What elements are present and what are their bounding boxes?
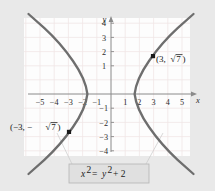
point-marker-neg3-neg-sqrt7: [67, 130, 71, 134]
point-label-radicand: 7: [51, 122, 56, 132]
x-axis-label: x: [195, 95, 200, 105]
y-tick-label: 3: [102, 34, 106, 43]
radical-icon: √: [171, 54, 176, 64]
y-tick-label: 2: [102, 48, 106, 57]
y-tick-label: 1: [102, 62, 106, 71]
equation-equals: =: [92, 169, 97, 179]
x-tick-label: −3: [64, 98, 73, 107]
equation-callout: x 2 = y 2 + 2: [69, 164, 149, 183]
point-label-suffix: ): [183, 54, 186, 64]
point-label-radicand: 7: [176, 54, 181, 64]
equation-x-exponent: 2: [87, 165, 92, 175]
equation-x-base: x: [80, 169, 86, 179]
x-tick-label: 3: [152, 98, 156, 107]
point-marker-3-sqrt7: [151, 54, 155, 58]
y-tick-label: −4: [99, 147, 108, 156]
x-tick-label: 5: [180, 98, 184, 107]
equation-y-base: y: [101, 169, 107, 179]
y-tick-label: 4: [102, 19, 106, 28]
y-tick-label: −1: [99, 104, 108, 113]
point-label-prefix: (−3, −: [10, 122, 32, 132]
x-tick-label: −5: [36, 98, 45, 107]
radical-icon: √: [46, 122, 51, 132]
graph-svg: y x −5 −4 −3 −2 −1 1 2 3 4 5 4 3 2 1 −1 …: [0, 0, 215, 191]
y-tick-label: −3: [99, 133, 108, 142]
equation-y-exponent: 2: [108, 165, 113, 175]
x-tick-label: 4: [166, 98, 170, 107]
y-tick-label: −2: [99, 119, 108, 128]
hyperbola-figure: y x −5 −4 −3 −2 −1 1 2 3 4 5 4 3 2 1 −1 …: [0, 0, 215, 191]
equation-plus-constant: + 2: [113, 169, 126, 179]
x-tick-label: 1: [123, 98, 127, 107]
x-tick-label: −4: [50, 98, 59, 107]
point-label-suffix: ): [58, 122, 61, 132]
point-label-prefix: (3,: [156, 54, 166, 64]
